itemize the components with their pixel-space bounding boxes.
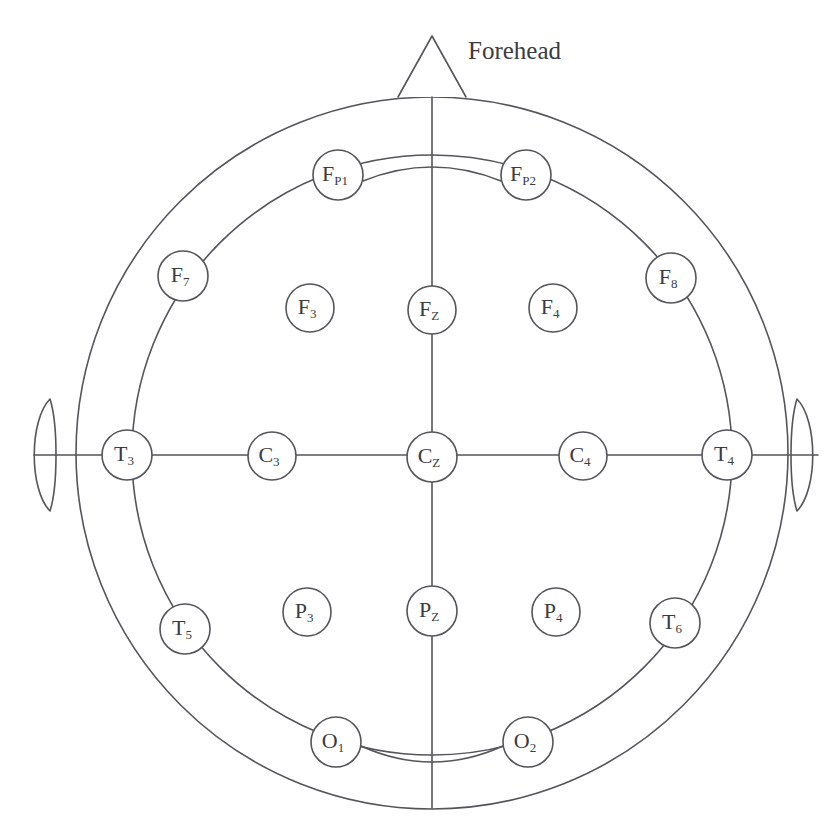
electrode-o2[interactable]: O2 [503, 717, 553, 767]
electrode-t6[interactable]: T6 [650, 598, 700, 648]
nose-marker-group [398, 36, 466, 97]
electrode-c4[interactable]: C4 [559, 432, 607, 480]
electrode-f8[interactable]: F8 [646, 253, 696, 303]
electrode-f4[interactable]: F4 [529, 284, 577, 332]
forehead-label: Forehead [468, 37, 562, 64]
nose-triangle-icon [398, 36, 466, 97]
electrode-t4[interactable]: T4 [702, 430, 752, 480]
electrode-t3[interactable]: T3 [102, 430, 152, 480]
electrode-f3[interactable]: F3 [286, 284, 334, 332]
electrode-fp2[interactable]: FP2 [501, 150, 551, 200]
electrode-o1[interactable]: O1 [311, 717, 361, 767]
electrode-fz[interactable]: FZ [408, 286, 456, 334]
electrode-fp1[interactable]: FP1 [313, 150, 363, 200]
electrode-pz[interactable]: PZ [407, 586, 457, 636]
electrode-t5[interactable]: T5 [160, 604, 210, 654]
electrode-group: FP1FP2F7F3FZF4F8T3C3CZC4T4T5P3PZP4T6O1O2 [102, 150, 752, 767]
electrode-c3[interactable]: C3 [248, 432, 296, 480]
electrode-p3[interactable]: P3 [283, 588, 331, 636]
electrode-f7[interactable]: F7 [158, 251, 208, 301]
electrode-cz[interactable]: CZ [407, 432, 457, 482]
eeg-electrode-map: FP1FP2F7F3FZF4F8T3C3CZC4T4T5P3PZP4T6O1O2… [0, 0, 840, 836]
eeg-diagram-root: FP1FP2F7F3FZF4F8T3C3CZC4T4T5P3PZP4T6O1O2… [0, 0, 840, 836]
electrode-p4[interactable]: P4 [532, 588, 580, 636]
